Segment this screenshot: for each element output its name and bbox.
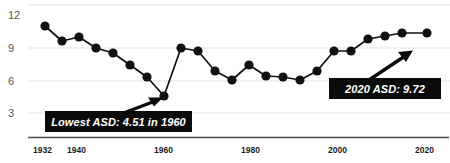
x-tick-1960: 1960 <box>154 146 173 155</box>
annotation-label-latest: 2020 ASD: 9.72 <box>329 78 441 99</box>
y-tick-12: 12 <box>8 10 20 21</box>
x-tick-2020: 2020 <box>415 146 434 155</box>
x-tick-1932: 1932 <box>33 146 52 155</box>
x-tick-1980: 1980 <box>241 146 260 155</box>
x-tick-2000: 2000 <box>328 146 347 155</box>
annotation-label-lowest: Lowest ASD: 4.51 in 1960 <box>45 111 192 132</box>
y-tick-9: 9 <box>8 43 14 54</box>
x-tick-1940: 1940 <box>67 146 86 155</box>
y-tick-3: 3 <box>8 108 14 119</box>
asd-line-chart: 12 9 6 3 1932 1940 1960 1980 2000 2020 L… <box>0 0 450 163</box>
y-tick-6: 6 <box>8 76 14 87</box>
